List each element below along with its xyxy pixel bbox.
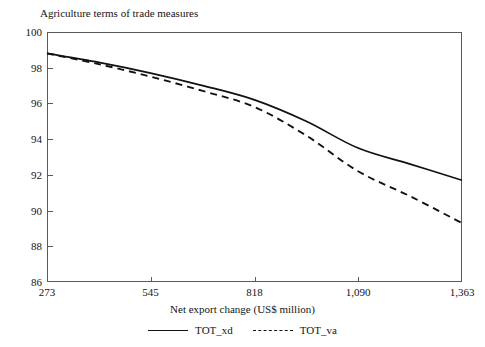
chart-container: Agriculture terms of trade measures 8688… bbox=[0, 0, 485, 347]
legend-item-tot_xd[interactable]: TOT_xd bbox=[148, 325, 233, 336]
chart-series-layer bbox=[0, 0, 485, 347]
legend-label: TOT_xd bbox=[195, 325, 233, 336]
legend-line-swatch-icon bbox=[148, 330, 188, 331]
x-axis-title: Net export change (US$ million) bbox=[0, 303, 485, 316]
legend-label: TOT_va bbox=[300, 325, 337, 336]
series-line-tot_va bbox=[47, 53, 462, 223]
series-line-tot_xd bbox=[47, 53, 462, 180]
chart-legend: TOT_xdTOT_va bbox=[0, 325, 485, 336]
legend-item-tot_va[interactable]: TOT_va bbox=[253, 325, 337, 336]
legend-line-swatch-icon bbox=[253, 330, 293, 331]
